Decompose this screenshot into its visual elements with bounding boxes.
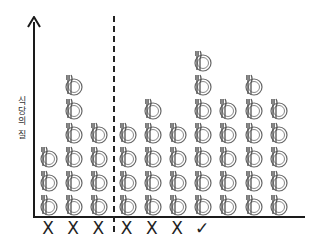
plate-fork-knife-icon <box>167 193 187 216</box>
icon-column-9 <box>242 72 264 216</box>
plate-fork-knife-icon <box>117 169 137 192</box>
plate-fork-knife-icon <box>243 193 263 216</box>
y-axis-label: 식당의 질 <box>4 86 28 150</box>
x-mark-icon: X <box>141 219 163 237</box>
icon-column-10 <box>267 96 289 216</box>
plate-fork-knife-icon <box>192 73 212 96</box>
plate-fork-knife-icon <box>192 169 212 192</box>
plate-fork-knife-icon <box>268 121 288 144</box>
plate-fork-knife-icon <box>38 169 58 192</box>
plate-fork-knife-icon <box>243 169 263 192</box>
plate-fork-knife-icon <box>63 73 83 96</box>
x-mark-icon: X <box>116 219 138 237</box>
plate-fork-knife-icon <box>88 169 108 192</box>
plate-fork-knife-icon <box>268 169 288 192</box>
icon-column-7 <box>191 48 213 216</box>
plate-fork-knife-icon <box>88 145 108 168</box>
plate-fork-knife-icon <box>63 145 83 168</box>
plate-fork-knife-icon <box>142 193 162 216</box>
x-mark-icon: X <box>62 219 84 237</box>
plate-fork-knife-icon <box>217 145 237 168</box>
plate-fork-knife-icon <box>63 97 83 120</box>
icon-column-2 <box>62 72 84 216</box>
plate-fork-knife-icon <box>63 193 83 216</box>
icon-column-4 <box>116 120 138 216</box>
plate-fork-knife-icon <box>117 121 137 144</box>
plate-fork-knife-icon <box>192 97 212 120</box>
plate-fork-knife-icon <box>217 169 237 192</box>
plate-fork-knife-icon <box>192 121 212 144</box>
plate-fork-knife-icon <box>192 49 212 72</box>
plate-fork-knife-icon <box>38 145 58 168</box>
plate-fork-knife-icon <box>142 97 162 120</box>
icon-column-3 <box>87 120 109 216</box>
plate-fork-knife-icon <box>243 145 263 168</box>
plate-fork-knife-icon <box>243 121 263 144</box>
plate-fork-knife-icon <box>117 193 137 216</box>
x-mark-icon: X <box>166 219 188 237</box>
plate-fork-knife-icon <box>142 145 162 168</box>
icon-column-1 <box>37 144 59 216</box>
x-mark-icon: X <box>87 219 109 237</box>
plate-fork-knife-icon <box>167 169 187 192</box>
plate-fork-knife-icon <box>63 121 83 144</box>
plate-fork-knife-icon <box>63 169 83 192</box>
plate-fork-knife-icon <box>243 73 263 96</box>
plate-fork-knife-icon <box>268 97 288 120</box>
y-axis <box>33 22 35 218</box>
plate-fork-knife-icon <box>167 121 187 144</box>
plate-fork-knife-icon <box>88 193 108 216</box>
checkmark-icon: ✓ <box>191 219 213 237</box>
plate-fork-knife-icon <box>142 169 162 192</box>
plate-fork-knife-icon <box>167 145 187 168</box>
plate-fork-knife-icon <box>268 145 288 168</box>
plate-fork-knife-icon <box>117 145 137 168</box>
x-mark-icon: X <box>37 219 59 237</box>
icon-column-6 <box>166 120 188 216</box>
plate-fork-knife-icon <box>217 121 237 144</box>
plate-fork-knife-icon <box>268 193 288 216</box>
plate-fork-knife-icon <box>243 97 263 120</box>
plate-fork-knife-icon <box>142 121 162 144</box>
icon-column-5 <box>141 96 163 216</box>
icon-column-8 <box>216 96 238 216</box>
plate-fork-knife-icon <box>217 97 237 120</box>
plate-fork-knife-icon <box>38 193 58 216</box>
plate-fork-knife-icon <box>192 193 212 216</box>
plate-fork-knife-icon <box>217 193 237 216</box>
plate-fork-knife-icon <box>88 121 108 144</box>
plate-fork-knife-icon <box>192 145 212 168</box>
